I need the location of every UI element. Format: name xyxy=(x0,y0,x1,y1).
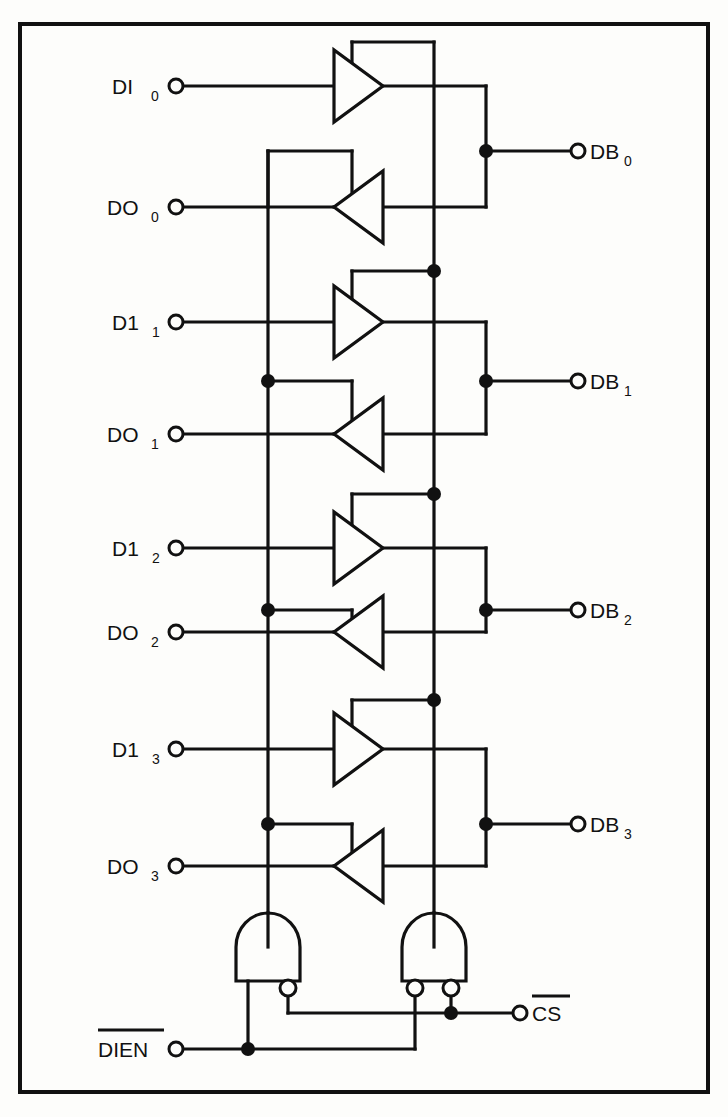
junction-db2 xyxy=(479,603,493,617)
junction-lbus-c1 xyxy=(261,374,275,388)
label-dien: DIEN xyxy=(98,1038,148,1061)
label-do2: DO xyxy=(107,621,139,644)
junction-lbus-c3 xyxy=(261,817,275,831)
junction-db0 xyxy=(479,144,493,158)
terminal-dien[interactable] xyxy=(169,1042,183,1056)
label-do0-sub: 0 xyxy=(151,209,159,225)
label-di2-sub: 2 xyxy=(152,550,160,566)
terminal-di2[interactable] xyxy=(169,541,183,555)
terminal-db1[interactable] xyxy=(571,374,585,388)
terminal-cs[interactable] xyxy=(513,1006,527,1020)
label-db0: DB xyxy=(590,140,619,163)
label-db3: DB xyxy=(590,813,619,836)
logic-schematic-svg: DI 0 DO 0 DB 0 D1 1 DO 1 DB 1 D1 2 DO 2 … xyxy=(0,0,728,1117)
junction-rbus-c1 xyxy=(427,264,441,278)
terminal-di0[interactable] xyxy=(169,79,183,93)
terminal-do0[interactable] xyxy=(169,200,183,214)
terminal-do1[interactable] xyxy=(169,427,183,441)
label-di2: D1 xyxy=(112,537,139,560)
and-right-inputB-bubble xyxy=(443,980,459,996)
terminal-di1[interactable] xyxy=(169,315,183,329)
junction-cs-rail xyxy=(444,1006,458,1020)
label-do3-sub: 3 xyxy=(151,868,159,884)
junction-dien-rail xyxy=(241,1042,255,1056)
label-do1-sub: 1 xyxy=(151,436,159,452)
junction-db3 xyxy=(479,817,493,831)
label-cs: CS xyxy=(532,1002,561,1025)
label-db3-sub: 3 xyxy=(624,826,632,842)
and-left-input-bubble xyxy=(280,980,296,996)
terminal-db2[interactable] xyxy=(571,603,585,617)
junction-rbus-c3 xyxy=(427,693,441,707)
label-di0-sub: 0 xyxy=(151,88,159,104)
junction-rbus-c2 xyxy=(427,487,441,501)
label-db1: DB xyxy=(590,370,619,393)
junction-lbus-c2 xyxy=(261,603,275,617)
label-di1: D1 xyxy=(112,311,139,334)
label-di1-sub: 1 xyxy=(152,324,160,340)
and-right-inputA-bubble xyxy=(407,980,423,996)
label-di0: DI xyxy=(112,75,133,98)
label-do0: DO xyxy=(107,196,139,219)
terminal-do3[interactable] xyxy=(169,859,183,873)
label-di3-sub: 3 xyxy=(152,751,160,767)
terminal-db0[interactable] xyxy=(571,144,585,158)
label-di3: D1 xyxy=(112,738,139,761)
schematic-sheet: DI 0 DO 0 DB 0 D1 1 DO 1 DB 1 D1 2 DO 2 … xyxy=(0,0,728,1117)
terminal-do2[interactable] xyxy=(169,625,183,639)
terminal-di3[interactable] xyxy=(169,742,183,756)
label-db2: DB xyxy=(590,599,619,622)
terminal-db3[interactable] xyxy=(571,817,585,831)
label-db2-sub: 2 xyxy=(624,612,632,628)
label-db1-sub: 1 xyxy=(624,383,632,399)
junction-db1 xyxy=(479,374,493,388)
label-db0-sub: 0 xyxy=(624,153,632,169)
label-do1: DO xyxy=(107,423,139,446)
label-do2-sub: 2 xyxy=(151,634,159,650)
label-do3: DO xyxy=(107,855,139,878)
